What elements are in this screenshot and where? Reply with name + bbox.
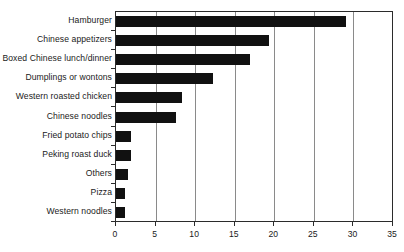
gridline-20 [274, 12, 275, 221]
value-tick-15 [234, 222, 235, 226]
value-tick-10 [194, 222, 195, 226]
value-tick-5 [155, 222, 156, 226]
category-tick [111, 164, 115, 165]
category-label: Western noodles [46, 206, 112, 217]
value-tick-label-15: 15 [222, 229, 246, 240]
category-tick [111, 106, 115, 107]
value-tick-20 [273, 222, 274, 226]
bar-chart: HamburgerChinese appetizersBoxed Chinese… [0, 0, 404, 252]
value-tick-label-0: 0 [103, 229, 127, 240]
value-tick-35 [392, 222, 393, 226]
category-tick [111, 30, 115, 31]
category-label: Western roasted chicken [16, 91, 112, 102]
value-tick-30 [352, 222, 353, 226]
bar [116, 150, 131, 161]
value-tick-label-5: 5 [143, 229, 167, 240]
bar [116, 169, 128, 180]
bar [116, 35, 269, 46]
bar [116, 207, 125, 218]
value-tick-label-25: 25 [301, 229, 325, 240]
category-label: Peking roast duck [42, 149, 112, 160]
value-tick-label-20: 20 [261, 229, 285, 240]
category-label: Others [86, 168, 112, 179]
bar [116, 54, 250, 65]
value-tick-label-35: 35 [380, 229, 404, 240]
value-tick-0 [115, 222, 116, 226]
category-label: Dumplings or wontons [25, 72, 112, 83]
bar [116, 188, 125, 199]
category-label: Hamburger [68, 15, 112, 26]
bar-row [116, 73, 213, 84]
value-tick-label-10: 10 [182, 229, 206, 240]
category-tick [111, 87, 115, 88]
category-label: Chinese noodles [47, 111, 112, 122]
bar-row [116, 92, 182, 103]
bar-row [116, 150, 131, 161]
bar [116, 112, 176, 123]
bar-row [116, 35, 269, 46]
category-tick [111, 202, 115, 203]
bar [116, 73, 213, 84]
gridline-30 [353, 12, 354, 221]
bar [116, 131, 131, 142]
bar-row [116, 188, 125, 199]
bar-row [116, 169, 128, 180]
category-label: Fried potato chips [42, 130, 112, 141]
bar-row [116, 112, 176, 123]
category-label: Chinese appetizers [37, 34, 112, 45]
value-tick-label-30: 30 [340, 229, 364, 240]
gridline-25 [314, 12, 315, 221]
value-tick-25 [313, 222, 314, 226]
plot-area [115, 11, 393, 222]
category-tick [111, 68, 115, 69]
category-tick [111, 126, 115, 127]
bar-row [116, 54, 250, 65]
category-label: Pizza [91, 187, 112, 198]
bar-row [116, 207, 125, 218]
bar [116, 16, 346, 27]
category-tick [111, 183, 115, 184]
category-tick [111, 49, 115, 50]
bar-row [116, 131, 131, 142]
category-tick [111, 145, 115, 146]
bar [116, 92, 182, 103]
category-label: Boxed Chinese lunch/dinner [2, 53, 112, 64]
bar-row [116, 16, 346, 27]
